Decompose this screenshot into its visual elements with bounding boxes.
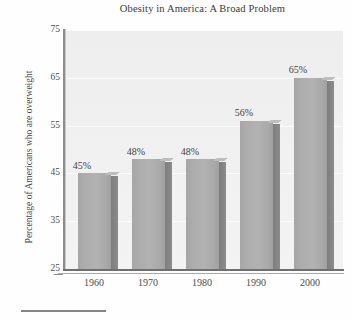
x-tick-2000: 2000 bbox=[284, 277, 336, 288]
y-tick-55: 55 bbox=[34, 120, 60, 130]
x-tick-1960: 1960 bbox=[68, 277, 120, 288]
data-label-1980: 48% bbox=[170, 146, 210, 157]
bar-side-1980 bbox=[219, 162, 226, 269]
x-tick-1980: 1980 bbox=[176, 277, 228, 288]
y-tick-35: 35 bbox=[34, 215, 60, 225]
bar-top-1990 bbox=[267, 120, 282, 123]
bar-front-1970 bbox=[132, 159, 165, 269]
bar-1980 bbox=[186, 159, 219, 269]
y-tick-25: 25 bbox=[34, 263, 60, 273]
bottom-rule bbox=[21, 310, 106, 312]
x-axis-line-secondary bbox=[58, 273, 344, 274]
y-axis-line-highlight bbox=[65, 29, 66, 270]
bar-side-1970 bbox=[165, 162, 172, 269]
bar-front-1980 bbox=[186, 159, 219, 269]
chart-figure: Obesity in America: A Broad Problem Perc… bbox=[0, 0, 353, 320]
gridline-75 bbox=[64, 30, 343, 31]
x-tick-1990: 1990 bbox=[230, 277, 282, 288]
data-label-1990: 56% bbox=[224, 107, 264, 118]
chart-title: Obesity in America: A Broad Problem bbox=[60, 3, 345, 14]
x-axis-line bbox=[63, 269, 344, 271]
y-tick-45: 45 bbox=[34, 167, 60, 177]
bar-top-2000 bbox=[321, 77, 336, 80]
bar-side-2000 bbox=[327, 81, 334, 269]
bar-1960 bbox=[78, 173, 111, 269]
bar-front-2000 bbox=[294, 78, 327, 269]
bar-front-1990 bbox=[240, 121, 273, 269]
bar-1990 bbox=[240, 121, 273, 269]
data-label-2000: 65% bbox=[278, 64, 318, 75]
bar-1970 bbox=[132, 159, 165, 269]
data-label-1960: 45% bbox=[62, 160, 102, 171]
y-tick-65: 65 bbox=[34, 72, 60, 82]
bar-top-1970 bbox=[159, 158, 174, 161]
bar-front-1960 bbox=[78, 173, 111, 269]
y-tick-labels: 75 65 55 45 35 25 bbox=[30, 0, 60, 320]
bar-top-1980 bbox=[213, 158, 228, 161]
bar-2000 bbox=[294, 78, 327, 269]
bar-side-1960 bbox=[111, 176, 118, 269]
bar-side-1990 bbox=[273, 124, 280, 269]
y-tick-75: 75 bbox=[34, 24, 60, 34]
data-label-1970: 48% bbox=[116, 146, 156, 157]
x-tick-1970: 1970 bbox=[122, 277, 174, 288]
